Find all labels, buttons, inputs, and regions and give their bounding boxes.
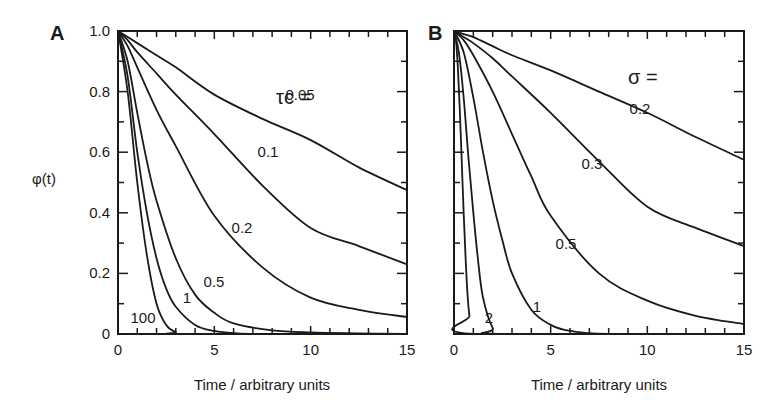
curve-0.5 bbox=[118, 31, 407, 334]
curve-2 bbox=[454, 31, 744, 334]
y-tick-label: 0.2 bbox=[89, 264, 110, 281]
curve-label: 0.2 bbox=[630, 100, 651, 117]
axes-b: 051015 bbox=[450, 31, 753, 358]
plot-frame bbox=[454, 31, 744, 334]
curve-0.05 bbox=[118, 31, 407, 190]
curve-label: 1 bbox=[533, 298, 541, 315]
y-tick-label: 0.4 bbox=[89, 204, 110, 221]
curve-label: 2 bbox=[485, 309, 493, 326]
x-tick-label: 15 bbox=[736, 341, 753, 358]
curve-0.5 bbox=[454, 31, 744, 324]
x-tick-label: 15 bbox=[399, 341, 416, 358]
curve-unlabeled bbox=[452, 31, 744, 334]
y-tick-label: 0.8 bbox=[89, 83, 110, 100]
curves-b bbox=[452, 31, 744, 334]
curve-label: 0.3 bbox=[582, 155, 603, 172]
curve-label: 0.1 bbox=[258, 143, 279, 160]
curve-label: 0.2 bbox=[232, 219, 253, 236]
curve-100 bbox=[118, 31, 407, 334]
x-axis-label-b: Time / arbitrary units bbox=[531, 376, 667, 393]
curve-label: 0.5 bbox=[204, 273, 225, 290]
x-tick-label: 10 bbox=[302, 341, 319, 358]
curve-labels-b: 0.20.30.512 bbox=[485, 100, 651, 326]
curve-label: 100 bbox=[130, 309, 155, 326]
panel-letter-a: A bbox=[50, 22, 64, 44]
panel-b: B 051015 0.20.30.512 σ = Time / arbitrar… bbox=[428, 22, 752, 393]
legend-title-sigma: σ = bbox=[628, 66, 658, 88]
x-tick-label: 5 bbox=[546, 341, 554, 358]
figure: A φ(t) 05101500.20.40.60.81.0 0.050.10.2… bbox=[0, 0, 780, 415]
curve-1 bbox=[118, 31, 407, 334]
x-tick-label: 0 bbox=[114, 341, 122, 358]
legend-title-tau: τc = bbox=[276, 86, 311, 108]
curve-label: 1 bbox=[183, 289, 191, 306]
x-tick-label: 0 bbox=[450, 341, 458, 358]
y-tick-label: 0 bbox=[102, 325, 110, 342]
x-axis-label-a: Time / arbitrary units bbox=[194, 376, 330, 393]
panel-letter-b: B bbox=[428, 22, 442, 44]
y-axis-label: φ(t) bbox=[32, 170, 56, 187]
panel-a: A φ(t) 05101500.20.40.60.81.0 0.050.10.2… bbox=[32, 22, 415, 393]
plot-frame bbox=[118, 31, 407, 334]
curve-label: 0.5 bbox=[556, 235, 577, 252]
curves-a bbox=[118, 31, 407, 334]
y-tick-label: 0.6 bbox=[89, 143, 110, 160]
curve-1 bbox=[454, 31, 744, 334]
x-tick-label: 5 bbox=[210, 341, 218, 358]
y-tick-label: 1.0 bbox=[89, 22, 110, 39]
x-tick-label: 10 bbox=[639, 341, 656, 358]
curve-0.2 bbox=[454, 31, 744, 160]
